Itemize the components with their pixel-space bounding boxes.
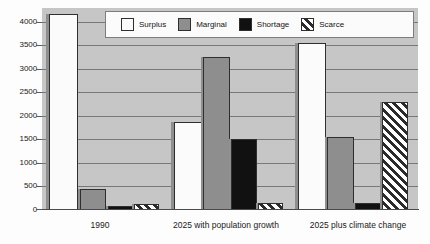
y-tick-label: 2000 (3, 112, 37, 120)
legend-item-surplus: Surplus (121, 18, 166, 31)
white-square-swatch-icon (121, 18, 134, 31)
y-tick-label: 2500 (3, 88, 37, 96)
hatched-square-swatch-icon (301, 18, 314, 31)
legend-label-marginal: Marginal (196, 20, 227, 29)
legend-label-shortage: Shortage (257, 20, 289, 29)
legend-item-shortage: Shortage (239, 18, 289, 31)
y-tick-label: 500 (3, 182, 37, 190)
bar-chart: 4000 3500 3000 2500 2000 1500 1000 500 0 (0, 0, 430, 244)
legend-label-surplus: Surplus (139, 20, 166, 29)
black-square-swatch-icon (239, 18, 252, 31)
x-axis-line (42, 209, 419, 210)
bar-shortage-2025pop (231, 139, 257, 210)
legend-label-scarce: Scarce (319, 20, 344, 29)
gridline (42, 92, 418, 93)
plot-area (42, 8, 418, 210)
y-tick-label: 1000 (3, 159, 37, 167)
bar-scarce-2025climate (382, 102, 408, 210)
y-tick-label: 0 (3, 206, 37, 214)
legend-item-scarce: Scarce (301, 18, 344, 31)
gray-square-swatch-icon (178, 18, 191, 31)
x-tick-label-2025-population: 2025 with population growth (166, 220, 286, 230)
bar-surplus-1990 (49, 14, 78, 210)
bar-marginal-2025pop (203, 57, 230, 210)
y-tick-label: 1500 (3, 135, 37, 143)
gridline (42, 116, 418, 117)
y-tick-label: 4000 (3, 18, 37, 26)
x-tick-label-2025-climate: 2025 plus climate change (300, 220, 416, 230)
x-tick-label-1990: 1990 (60, 220, 140, 230)
bar-surplus-2025pop (174, 122, 202, 210)
y-tick-label: 3000 (3, 65, 37, 73)
gridline (42, 45, 418, 46)
y-tick-label: 3500 (3, 41, 37, 49)
bar-marginal-1990 (80, 189, 106, 210)
legend-item-marginal: Marginal (178, 18, 227, 31)
legend: Surplus Marginal Shortage Scarce (105, 11, 414, 38)
gridline (42, 69, 418, 70)
bar-marginal-2025climate (327, 137, 354, 210)
bar-surplus-2025climate (298, 43, 326, 210)
